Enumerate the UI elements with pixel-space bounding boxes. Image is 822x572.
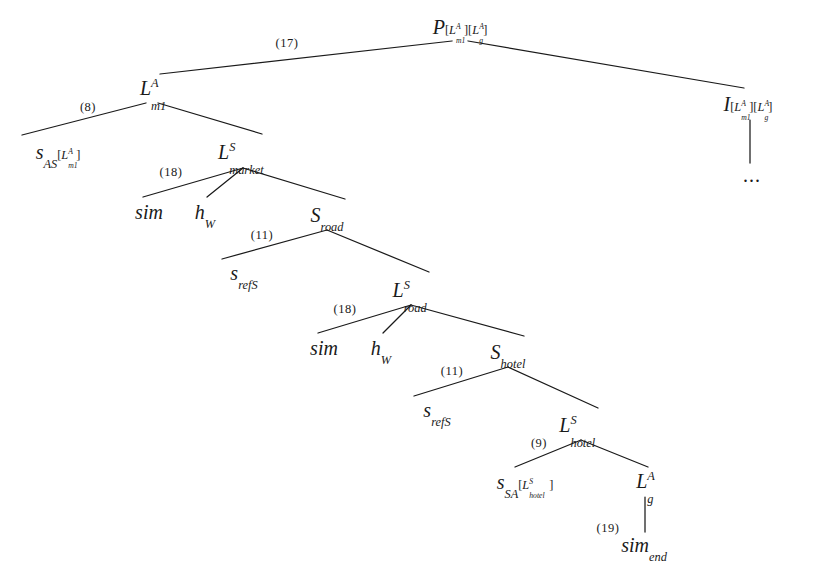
edge-label-lbl-17: (17) (276, 37, 299, 50)
tree-edge-shotel-lhotel (508, 367, 598, 408)
edge-label-lbl-18b: (18) (334, 303, 357, 316)
tree-node-sim-2: sim (310, 338, 338, 358)
tree-edge-lm1-lmarket (158, 103, 262, 134)
tree-node-sim-end: simend (621, 535, 667, 555)
tree-node-hw-1: hW (195, 202, 215, 222)
tree-node-i-node: I[LAm1][LAg] (723, 94, 772, 114)
edge-label-lbl-11b: (11) (441, 365, 463, 378)
tree-node-sim-1: sim (135, 202, 163, 222)
edge-label-lbl-8: (8) (80, 101, 96, 114)
tree-node-root: P[LAm1][LAg] (433, 17, 488, 37)
edge-label-lbl-11a: (11) (251, 229, 273, 242)
tree-node-s-road: Sroad (311, 205, 344, 225)
tree-node-lm1: LAm1 (140, 78, 164, 98)
tree-edge-root-lm1 (160, 41, 452, 74)
tree-edge-lmarket-sim1 (143, 168, 243, 197)
tree-node-lg: LAg (636, 471, 654, 491)
tree-node-s-as: sAS[LAm1] (36, 142, 81, 162)
tree-node-l-market: LSmarket (218, 142, 268, 162)
tree-node-s-refs-1: srefS (230, 263, 257, 283)
tree-node-hw-2: hW (371, 338, 391, 358)
edge-label-lbl-9: (9) (531, 437, 547, 450)
tree-edge-root-i (468, 41, 744, 88)
tree-node-l-road: LSroad (393, 280, 430, 300)
tree-node-s-hotel: Shotel (491, 342, 526, 362)
tree-edge-sroad-lroad (327, 230, 429, 272)
tree-node-dots: ... (743, 165, 761, 185)
edge-label-lbl-19: (19) (597, 522, 620, 535)
tree-edge-sroad-srefs1 (222, 230, 327, 259)
tree-node-l-hotel: LShotel (559, 415, 602, 435)
tree-edge-lroad-shotel (411, 305, 524, 336)
tree-node-s-refs-2: srefS (423, 400, 450, 420)
edge-label-lbl-18a: (18) (160, 166, 183, 179)
tree-node-s-sa: sSA[LShotel] (497, 472, 554, 492)
